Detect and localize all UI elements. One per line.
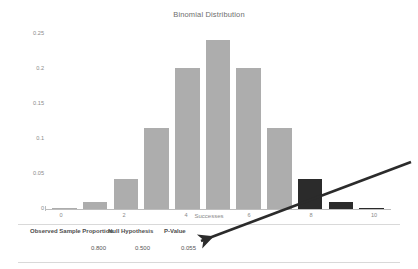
- summary-table: Observed Sample Proportion Null Hypothes…: [0, 224, 418, 269]
- y-tick-label: 0.25: [6, 30, 44, 36]
- bar-5: [206, 40, 231, 209]
- plot-area: [46, 30, 390, 209]
- table-bottom-rule: [18, 262, 400, 263]
- bar-4: [175, 68, 200, 209]
- cell-null-hypothesis: 0.500: [112, 245, 150, 251]
- x-axis-title: Successes: [0, 213, 418, 219]
- chart-screenshot: Binomial Distribution 0.25 0.2 0.15 0.1 …: [0, 0, 418, 269]
- y-tick-label: 0.1: [6, 135, 44, 141]
- bar-2: [114, 179, 139, 209]
- cell-observed-sample-proportion: 0.800: [56, 245, 106, 251]
- bar-6: [236, 68, 261, 209]
- y-tick-label: 0.2: [6, 65, 44, 71]
- x-axis-line: [45, 209, 391, 210]
- chart-title: Binomial Distribution: [0, 10, 418, 19]
- cell-p-value: 0.055: [158, 245, 196, 251]
- column-header-null-hypothesis: Null Hypothesis: [108, 228, 153, 234]
- column-header-p-value: P-Value: [164, 228, 186, 234]
- y-tick-label: 0.05: [6, 170, 44, 176]
- bar-8: [298, 179, 323, 209]
- bar-7: [267, 128, 292, 209]
- table-top-rule: [18, 224, 400, 225]
- column-header-observed-sample-proportion: Observed Sample Proportion: [30, 228, 113, 234]
- bar-3: [144, 128, 169, 209]
- y-tick-label: 0.15: [6, 100, 44, 106]
- y-tick-label: 0: [6, 205, 44, 211]
- x-axis-origin-tick: [45, 206, 46, 211]
